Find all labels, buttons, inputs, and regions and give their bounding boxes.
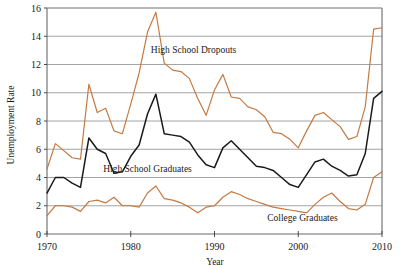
y-tick-label: 16 <box>31 3 41 14</box>
x-tick-label: 1990 <box>205 241 225 252</box>
axis-ticks <box>44 8 382 237</box>
gridlines <box>47 8 382 206</box>
x-tick-labels: 19701980199020002010 <box>37 241 392 252</box>
series-label: High School Graduates <box>103 164 192 174</box>
x-tick-label: 1970 <box>37 241 57 252</box>
y-tick-label: 14 <box>31 31 41 42</box>
unemployment-rate-chart: 0246810121416 19701980199020002010 High … <box>0 0 401 269</box>
x-tick-label: 1980 <box>121 241 141 252</box>
y-tick-label: 2 <box>36 200 41 211</box>
data-series <box>47 12 382 215</box>
series-line <box>47 12 382 169</box>
series-annotations: High School DropoutsHigh School Graduate… <box>103 45 338 222</box>
y-tick-label: 6 <box>36 144 41 155</box>
y-tick-label: 0 <box>36 229 41 240</box>
chart-canvas: 0246810121416 19701980199020002010 High … <box>0 0 401 269</box>
y-tick-labels: 0246810121416 <box>31 3 41 240</box>
y-tick-label: 12 <box>31 59 41 70</box>
series-line <box>47 172 382 216</box>
series-label: High School Dropouts <box>151 45 237 55</box>
x-tick-label: 2010 <box>372 241 392 252</box>
x-axis-label: Year <box>206 257 224 267</box>
y-axis-label: Unemployment Rate <box>6 86 16 165</box>
y-tick-label: 10 <box>31 87 41 98</box>
x-tick-label: 2000 <box>288 241 308 252</box>
series-label: College Graduates <box>267 213 338 223</box>
y-tick-label: 4 <box>36 172 41 183</box>
y-tick-label: 8 <box>36 116 41 127</box>
